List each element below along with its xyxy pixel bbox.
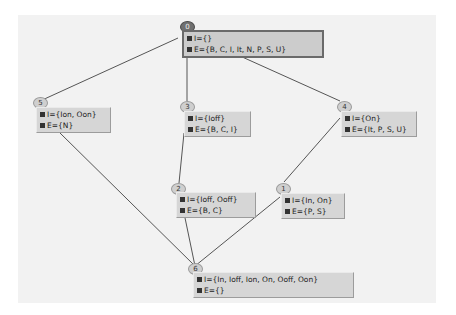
extent-icon — [187, 47, 192, 52]
node-label-box[interactable]: I={Ion, Oon} E={N} — [36, 107, 111, 133]
edge-0-5 — [40, 38, 178, 101]
node-label-box[interactable]: I={Ioff, Ooff} E={B, C} — [176, 192, 256, 218]
extent-icon — [188, 127, 193, 132]
extent-icon — [40, 123, 45, 128]
intent-text: I={On} — [352, 114, 381, 123]
intent-icon — [285, 198, 290, 203]
extent-icon — [345, 127, 350, 132]
edge-3-2 — [179, 133, 184, 183]
node-label-box[interactable]: I={} E={B, C, I, It, N, P, S, U} — [182, 30, 324, 58]
extent-text: E={P, S} — [292, 207, 327, 216]
intent-icon — [180, 197, 185, 202]
intent-text: I={In, Ioff, Ion, On, Ooff, Oon} — [204, 275, 318, 284]
edge-5-6 — [60, 133, 195, 266]
intent-icon — [40, 112, 45, 117]
extent-text: E={N} — [47, 121, 73, 130]
extent-text: E={It, P, S, U} — [352, 125, 407, 134]
intent-text: I={} — [194, 34, 212, 43]
extent-text: E={B, C, I, It, N, P, S, U} — [194, 45, 286, 54]
edge-0-4 — [240, 56, 340, 101]
extent-icon — [180, 208, 185, 213]
edge-2-6 — [184, 213, 195, 266]
intent-text: I={Ioff} — [195, 114, 225, 123]
intent-text: I={In, On} — [292, 196, 332, 205]
intent-text: I={Ion, Oon} — [47, 110, 97, 119]
intent-text: I={Ioff, Ooff} — [187, 195, 237, 204]
extent-icon — [197, 288, 202, 293]
node-label-box[interactable]: I={In, Ioff, Ion, On, Ooff, Oon} E={} — [193, 272, 354, 298]
extent-text: E={B, C, I} — [195, 125, 238, 134]
node-label-box[interactable]: I={In, On} E={P, S} — [281, 193, 345, 219]
extent-text: E={B, C} — [187, 206, 223, 215]
extent-icon — [285, 209, 290, 214]
intent-icon — [345, 116, 350, 121]
intent-icon — [187, 36, 192, 41]
edge-4-1 — [284, 118, 340, 182]
intent-icon — [188, 116, 193, 121]
node-label-box[interactable]: I={On} E={It, P, S, U} — [341, 111, 417, 137]
intent-icon — [197, 277, 202, 282]
node-label-box[interactable]: I={Ioff} E={B, C, I} — [184, 111, 251, 137]
extent-text: E={} — [204, 286, 225, 295]
